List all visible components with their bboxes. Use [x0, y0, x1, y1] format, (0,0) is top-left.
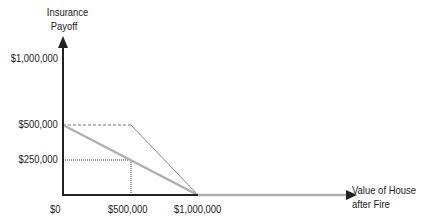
x-title-line1: Value of House: [352, 184, 416, 196]
x-tick-500000: $500,000: [108, 203, 147, 215]
x-tick-1000000: $1,000,000: [174, 203, 221, 215]
thin-payoff-line: [131, 125, 198, 195]
y-tick-250000: $250,000: [19, 153, 58, 165]
y-axis-arrow-icon: [58, 36, 68, 48]
y-tick-500000: $500,000: [19, 118, 58, 130]
x-title-line2: after Fire: [352, 198, 390, 210]
y-title-line1: Insurance: [47, 6, 81, 18]
y-title-line2: Payoff: [47, 20, 81, 32]
y-tick-1000000: $1,000,000: [11, 52, 58, 64]
x-tick-0: $0: [50, 203, 61, 215]
